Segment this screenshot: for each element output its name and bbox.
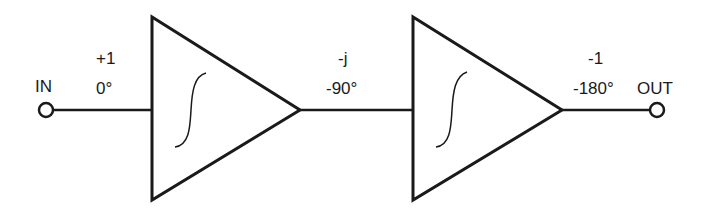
stage2-amplifier xyxy=(413,17,562,200)
input-label: IN xyxy=(35,77,52,96)
output-terminal-icon xyxy=(650,103,664,117)
node0-gain: +1 xyxy=(96,49,115,68)
input-terminal xyxy=(39,103,53,117)
node2-phase: -180° xyxy=(573,79,614,98)
amplifier-triangle-icon xyxy=(152,17,300,200)
signal-chain-diagram: IN +1 0° -j -90° -1 -180° OUT xyxy=(0,0,705,212)
node2-gain: -1 xyxy=(588,49,603,68)
input-terminal-icon xyxy=(39,103,53,117)
stage1-amplifier xyxy=(152,17,300,200)
output-terminal xyxy=(650,103,664,117)
node1-gain: -j xyxy=(338,49,347,68)
amplifier-triangle-icon xyxy=(413,17,562,200)
node1-phase: -90° xyxy=(326,79,357,98)
node0-phase: 0° xyxy=(96,79,112,98)
output-label: OUT xyxy=(637,79,673,98)
